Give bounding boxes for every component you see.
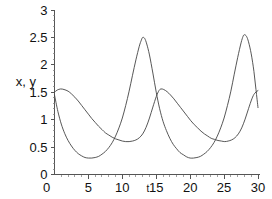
series-curve-y — [55, 89, 259, 142]
x-tick-label: 5 — [85, 180, 92, 195]
y-tick-label: 2 — [40, 57, 47, 72]
x-tick-label: 15 — [149, 180, 163, 195]
x-tick-label: 20 — [183, 180, 197, 195]
x-axis-title: t — [147, 183, 150, 194]
x-axis-ticks: 051015202530 — [43, 175, 265, 195]
y-axis-ticks: 00.511.522.53 — [29, 3, 54, 183]
x-tick-label: 10 — [115, 180, 129, 195]
chart-figure: 00.511.522.53 051015202530 x, y t — [0, 0, 272, 199]
y-axis-title: x, y — [16, 74, 37, 89]
x-tick-label: 0 — [43, 180, 50, 195]
data-curves — [55, 35, 259, 158]
y-tick-label: 0.5 — [29, 140, 47, 155]
y-tick-label: 1 — [40, 112, 47, 127]
oscillation-line-chart: 00.511.522.53 051015202530 x, y t — [0, 0, 272, 199]
x-tick-label: 25 — [217, 180, 231, 195]
x-tick-label: 30 — [251, 180, 265, 195]
y-tick-label: 3 — [40, 3, 47, 18]
y-tick-label: 2.5 — [29, 30, 47, 45]
